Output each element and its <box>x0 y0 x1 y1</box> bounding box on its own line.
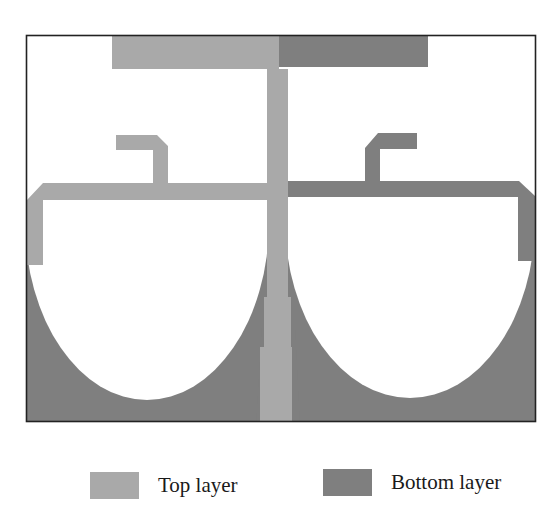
feed-line-base-top-layer <box>260 347 292 421</box>
right-arm-bottom-layer <box>285 181 535 197</box>
bottom-layer-swatch <box>323 469 372 496</box>
antenna-layout-diagram <box>0 0 558 524</box>
top-layer-swatch <box>90 472 139 499</box>
right-stub-bottom-layer <box>518 197 535 261</box>
legend-bottom-layer: Bottom layer <box>323 469 501 496</box>
left-hook-top-layer <box>116 135 168 183</box>
top-pad-bottom-layer <box>279 36 428 67</box>
legend-top-layer: Top layer <box>90 472 238 499</box>
legend-label: Bottom layer <box>391 470 501 495</box>
right-hook-bottom-layer <box>365 133 417 181</box>
feed-line-widened-top-layer <box>264 297 291 347</box>
legend-label: Top layer <box>158 473 238 498</box>
top-pad-top-layer <box>112 36 279 69</box>
